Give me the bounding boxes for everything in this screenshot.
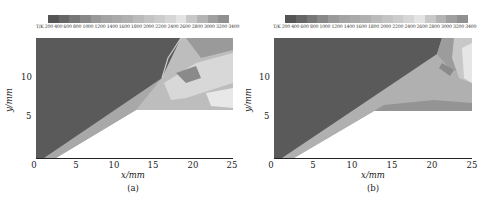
x-tick: 0 [268, 160, 273, 170]
y-tick: 5 [26, 111, 31, 121]
x-tick: 20 [188, 160, 199, 170]
y-axis-label-a: y/mm [4, 88, 14, 112]
x-axis-label-a: x/mm [121, 170, 145, 180]
y-tick: 10 [21, 72, 32, 82]
x-tick: 20 [427, 160, 438, 170]
plot-area-a [36, 38, 233, 158]
y-axis-label-b: y/mm [243, 88, 253, 112]
x-tick: 25 [227, 160, 238, 170]
plot-area-b [274, 38, 472, 158]
colorbar-b [285, 15, 468, 23]
colorbar-labels-b: T/K 200 400 600 800 1000 1200 1400 1600 … [273, 24, 476, 29]
subfigure-label-b: (b) [367, 183, 379, 193]
x-tick: 10 [347, 160, 358, 170]
panel-b: T/K 200 400 600 800 1000 1200 1400 1600 … [243, 0, 486, 206]
x-tick: 15 [148, 160, 159, 170]
y-tick: 5 [264, 111, 269, 121]
panel-a: T/K 200 400 600 800 1000 1200 1400 1600 … [0, 0, 243, 206]
x-tick: 5 [73, 160, 78, 170]
y-tick: 10 [259, 72, 270, 82]
x-tick: 10 [109, 160, 120, 170]
x-tick: 5 [310, 160, 315, 170]
x-axis-b [274, 158, 472, 159]
x-tick: 15 [387, 160, 398, 170]
x-axis-a [36, 158, 233, 159]
x-tick: 25 [467, 160, 478, 170]
colorbar-a [48, 15, 229, 23]
colorbar-labels-a: T/K 200 400 600 800 1000 1200 1400 1600 … [36, 24, 239, 29]
x-tick: 0 [31, 160, 36, 170]
subfigure-label-a: (a) [127, 183, 139, 193]
x-axis-label-b: x/mm [361, 170, 385, 180]
